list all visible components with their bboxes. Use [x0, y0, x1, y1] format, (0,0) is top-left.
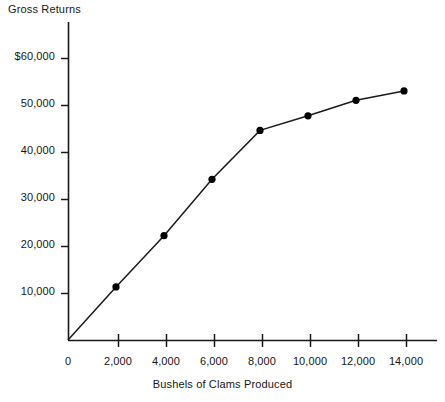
y-axis-tick-label: 20,000 — [0, 238, 55, 250]
data-point — [256, 127, 263, 134]
y-axis-tick-label: 40,000 — [0, 144, 55, 156]
x-axis-title: Bushels of Clams Produced — [0, 378, 445, 390]
plot-area — [0, 0, 445, 402]
data-point — [160, 232, 167, 239]
data-point — [304, 112, 311, 119]
data-point-markers — [112, 87, 407, 290]
gross-returns-chart: Gross Returns $60,00050,00040,0 — [0, 0, 445, 402]
y-axis-tick-label: 50,000 — [0, 97, 55, 109]
data-line — [68, 91, 404, 340]
x-axis-tick-label: 14,000 — [376, 355, 436, 367]
data-point — [352, 97, 359, 104]
y-axis-tick-label: $60,000 — [0, 50, 55, 62]
data-point — [208, 176, 215, 183]
y-axis-tick-label: 10,000 — [0, 285, 55, 297]
y-axis-ticks — [61, 59, 68, 294]
y-axis-tick-label: 30,000 — [0, 191, 55, 203]
data-point — [400, 87, 407, 94]
data-point — [112, 283, 119, 290]
